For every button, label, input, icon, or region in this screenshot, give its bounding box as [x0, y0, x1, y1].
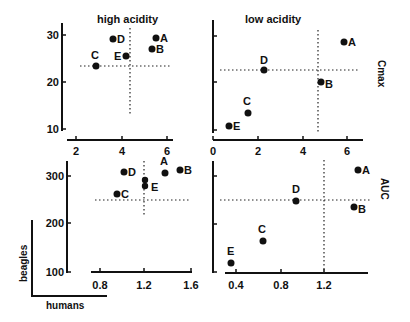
point-a	[162, 170, 169, 177]
y-tick-label: 20	[47, 76, 59, 88]
point-label: D	[292, 183, 300, 195]
point-label: A	[160, 155, 168, 167]
x-tick-label: 0.4	[228, 279, 244, 291]
point-a	[341, 39, 348, 46]
x-tick-label: 1.2	[316, 279, 331, 291]
point-label: C	[121, 188, 129, 200]
point-d	[261, 67, 268, 74]
point-label: A	[348, 36, 356, 48]
point-label: C	[258, 223, 266, 235]
point-d	[121, 169, 128, 176]
point-label: E	[233, 120, 240, 132]
x-tick-label: 4	[119, 145, 126, 157]
point-d	[293, 198, 300, 205]
y-tick-label: 300	[46, 170, 64, 182]
point-b	[149, 46, 156, 53]
x-tick-label: 0.8	[273, 279, 288, 291]
point-label: C	[91, 49, 99, 61]
legend-y-label: beagles	[18, 244, 29, 282]
point-label: B	[358, 203, 366, 215]
y-tick-label: 100	[46, 266, 64, 278]
point-label: B	[184, 164, 192, 176]
point-e	[228, 260, 235, 267]
point-e-second	[142, 183, 148, 189]
x-tick-label: 1.2	[136, 279, 151, 291]
point-label: D	[260, 54, 268, 66]
row-label-cmax: Cmax	[376, 60, 387, 88]
col-title-low-acidity: low acidity	[245, 13, 302, 25]
point-a	[355, 167, 362, 174]
point-b	[177, 167, 184, 174]
figure: high acidity low acidity Cmax AUC 30 20 …	[0, 0, 410, 322]
point-label: B	[156, 43, 164, 55]
point-c	[114, 191, 121, 198]
row-label-auc: AUC	[379, 178, 390, 200]
point-label: E	[114, 50, 121, 62]
panel-high-acidity-auc: 300 200 100 0.8 1.2 1.6 A B C D E	[46, 155, 199, 291]
point-label: D	[128, 166, 136, 178]
x-tick-label: 4	[300, 145, 307, 157]
x-tick-label: 6	[344, 145, 350, 157]
x-tick-label: 2	[255, 145, 261, 157]
point-b	[318, 79, 325, 86]
x-tick-label: 2	[73, 145, 79, 157]
y-tick-label: 30	[47, 29, 59, 41]
y-tick-label: 200	[46, 217, 64, 229]
point-label: B	[325, 78, 333, 90]
panel-low-acidity-auc: 0.4 0.8 1.2 A B C D E	[213, 160, 370, 291]
point-b	[351, 204, 358, 211]
point-c	[245, 110, 252, 117]
point-e	[142, 177, 148, 183]
point-label: D	[117, 33, 125, 45]
point-a	[153, 35, 160, 42]
point-label: A	[362, 164, 370, 176]
point-c	[93, 63, 100, 70]
y-tick-label: 10	[47, 123, 59, 135]
col-title-high-acidity: high acidity	[97, 13, 159, 25]
x-tick-label: 0.8	[92, 279, 107, 291]
x-tick-label: 0	[210, 145, 216, 157]
point-label: C	[243, 95, 251, 107]
point-d	[110, 36, 117, 43]
x-tick-label: 1.6	[183, 279, 198, 291]
panel-low-acidity-cmax: 0 2 4 6 A B C D E	[210, 20, 363, 157]
point-c	[260, 238, 267, 245]
point-label: E	[227, 245, 234, 257]
point-label: E	[151, 181, 158, 193]
point-e	[123, 53, 130, 60]
legend-x-label: humans	[46, 300, 85, 311]
panel-high-acidity-cmax: 30 20 10 2 4 6 A B C D E	[47, 23, 173, 157]
point-e	[226, 123, 233, 130]
